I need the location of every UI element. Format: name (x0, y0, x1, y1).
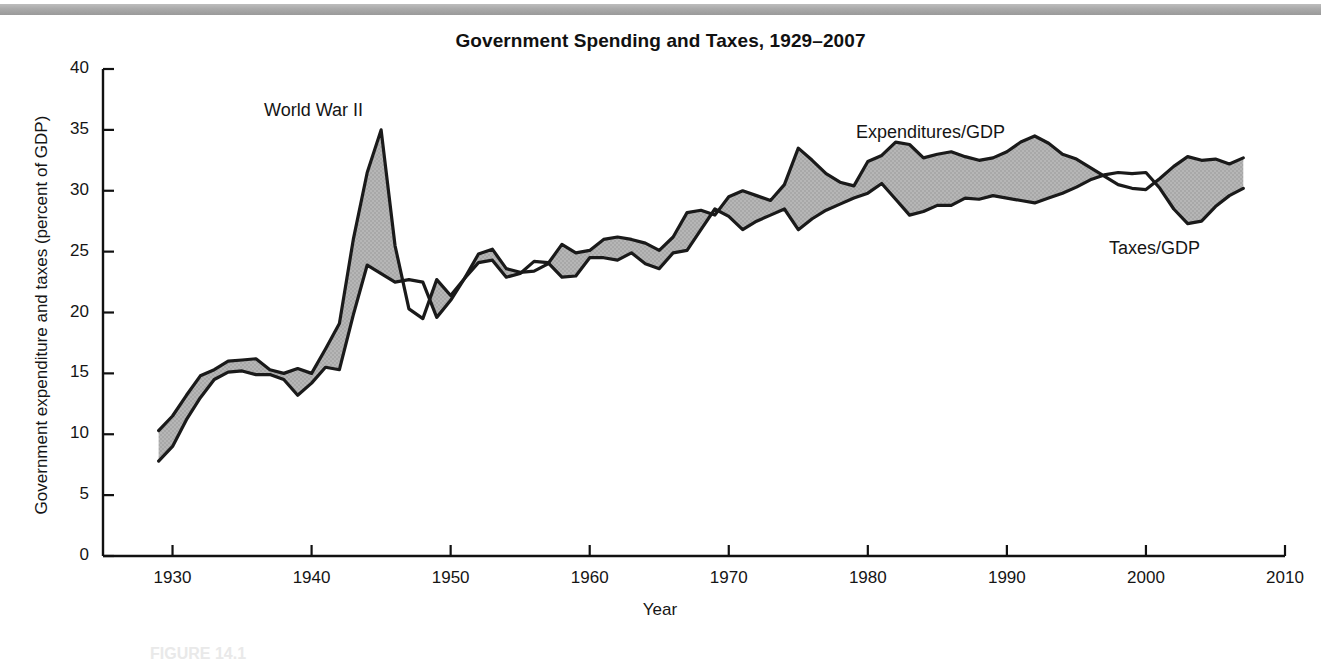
y-tick-label: 5 (37, 484, 89, 504)
x-tick-label: 2010 (1245, 568, 1321, 588)
x-tick-label: 1940 (272, 568, 352, 588)
x-tick-label: 1970 (689, 568, 769, 588)
x-tick-label: 1980 (828, 568, 908, 588)
y-tick-label: 15 (37, 362, 89, 382)
world-war-2-label: World War II (264, 100, 363, 121)
y-tick-label: 30 (37, 180, 89, 200)
axes (103, 69, 1285, 556)
expenditures-label: Expenditures/GDP (856, 122, 1005, 143)
taxes-label: Taxes/GDP (1109, 238, 1200, 259)
x-tick-label: 1990 (967, 568, 1047, 588)
y-tick-label: 25 (37, 241, 89, 261)
x-axis-title: Year (560, 600, 760, 620)
x-tick-label: 1930 (133, 568, 213, 588)
x-tick-label: 2000 (1106, 568, 1186, 588)
y-tick-label: 20 (37, 302, 89, 322)
deficit-shading (159, 130, 1244, 461)
y-tick-label: 0 (37, 545, 89, 565)
figure-caption: FIGURE 14.1 (150, 645, 246, 663)
y-tick-label: 35 (37, 119, 89, 139)
x-tick-label: 1960 (550, 568, 630, 588)
x-tick-label: 1950 (411, 568, 491, 588)
y-tick-label: 40 (37, 58, 89, 78)
y-tick-label: 10 (37, 423, 89, 443)
